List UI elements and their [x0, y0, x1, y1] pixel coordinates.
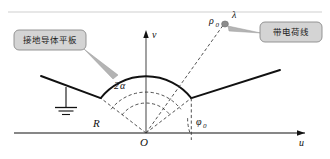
- right-callout[interactable]: 带电荷线: [260, 22, 322, 42]
- charge-point-marker: [222, 21, 229, 27]
- ground-symbol: [55, 87, 77, 115]
- u-axis-arrowhead: [297, 130, 305, 136]
- left-conductor-plate: [41, 76, 101, 98]
- right-callout-label: 带电荷线: [273, 27, 309, 37]
- right-callout-leader: [228, 26, 261, 33]
- dashed-radius-left: [101, 98, 146, 133]
- rho-symbol: ρ: [208, 15, 214, 26]
- left-callout-label: 接地导体平板: [23, 35, 77, 45]
- dashed-arc-phi-zero-outer: [188, 118, 190, 133]
- right-conductor-plate: [191, 70, 280, 98]
- two-alpha-label: 2 α: [114, 80, 126, 91]
- phi-symbol: φ: [196, 116, 202, 127]
- wedge-geometry-diagram: 接地导体平板 带电荷线 v u O R 2 α φ 0 ρ 0 λ: [0, 0, 330, 159]
- v-axis-arrowhead: [143, 30, 148, 38]
- rho-zero-label: ρ 0: [208, 15, 220, 29]
- rho-subscript: 0: [216, 21, 220, 29]
- dashed-ray-to-charge: [146, 24, 224, 133]
- figure-container: 接地导体平板 带电荷线 v u O R 2 α φ 0 ρ 0 λ: [0, 0, 330, 159]
- left-callout-leader: [84, 49, 118, 79]
- phi-subscript: 0: [203, 122, 207, 130]
- dashed-radius-right: [146, 98, 191, 133]
- u-axis-label: u: [299, 137, 304, 148]
- left-callout[interactable]: 接地导体平板: [14, 30, 86, 50]
- v-axis-label: v: [152, 29, 157, 40]
- radius-label: R: [92, 117, 100, 129]
- origin-label: O: [140, 136, 148, 148]
- lambda-label: λ: [231, 9, 237, 20]
- two-alpha-numeral: 2: [114, 80, 119, 91]
- phi-zero-label: φ 0: [196, 116, 207, 130]
- alpha-symbol: α: [120, 80, 126, 91]
